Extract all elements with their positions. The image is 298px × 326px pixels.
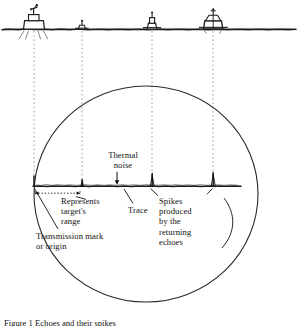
trace-noise-texture [36,185,238,186]
transmission-mark-label: Transmission mark or origin [36,231,146,251]
leader-range-bracket [35,191,80,195]
target-icon-buoy [75,20,88,29]
leader-spikes-left [151,189,158,196]
thermal-noise-pointer [115,172,119,185]
spikes-label: Spikes produced by the returning echoes [159,196,221,247]
leader-trace [124,189,133,203]
figure-caption: Figure 1 Echoes and their spikes [4,318,294,326]
trace-label: Trace [128,205,162,215]
trace-baseline [33,186,241,187]
target-icon-vessel-large [19,4,48,39]
target-icon-vessel-small [143,11,161,29]
represents-target-range-label: Represents target's range [61,196,123,227]
leader-spikes-right [207,189,212,195]
trace-spikes [34,173,215,187]
leader-spikes-curve [222,198,233,248]
radar-trace-figure: Thermal noise Represents target's range … [0,0,298,326]
crt-screen-circle [34,86,258,302]
a-scope-trace [33,185,241,187]
thermal-noise-label: Thermal noise [93,150,153,170]
